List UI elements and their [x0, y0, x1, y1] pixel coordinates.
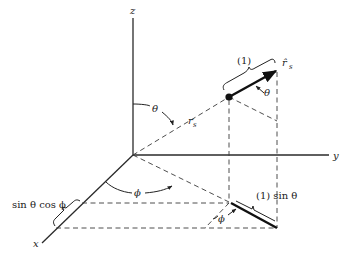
sin-theta-label: (1) sin θ — [256, 190, 297, 201]
theta-arc — [133, 104, 150, 106]
theta-label: θ — [152, 103, 158, 114]
sin-cos-label: sin θ cos ϕ — [12, 199, 66, 210]
r-s-subscript: s — [193, 121, 197, 129]
phi-small-arrow — [228, 209, 236, 215]
sin-theta-segment — [231, 203, 277, 228]
sin-theta-brace — [236, 201, 275, 221]
z-axis-label: z — [129, 5, 136, 16]
theta-arc-arrow — [162, 112, 173, 125]
r-hat-subscript: s — [289, 63, 293, 71]
theta-arrow-tip — [256, 86, 264, 93]
y-axis-label: y — [332, 150, 339, 161]
xy-projection-line — [133, 155, 229, 202]
phi-small-label: ϕ — [218, 213, 225, 224]
phi-arc — [106, 182, 132, 193]
x-axis-label: x — [33, 238, 39, 249]
r-hat-label: r̂ — [282, 57, 288, 68]
radius-line — [133, 97, 229, 155]
spherical-coordinates-diagram: z y x (1) r̂ s θ θ r s ϕ ϕ (1) sin θ sin… — [0, 0, 348, 261]
phi-arc-arrow — [145, 186, 172, 193]
slanted-dashed — [205, 203, 229, 228]
projection-line-upper — [229, 97, 277, 121]
unit-label: (1) — [237, 55, 251, 66]
phi-label: ϕ — [134, 187, 141, 198]
theta-tip-label: θ — [264, 87, 270, 98]
